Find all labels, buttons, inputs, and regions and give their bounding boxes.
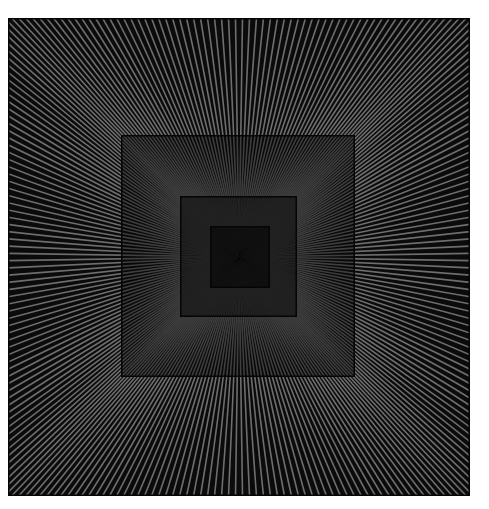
radiating-squares-artwork <box>0 0 489 509</box>
